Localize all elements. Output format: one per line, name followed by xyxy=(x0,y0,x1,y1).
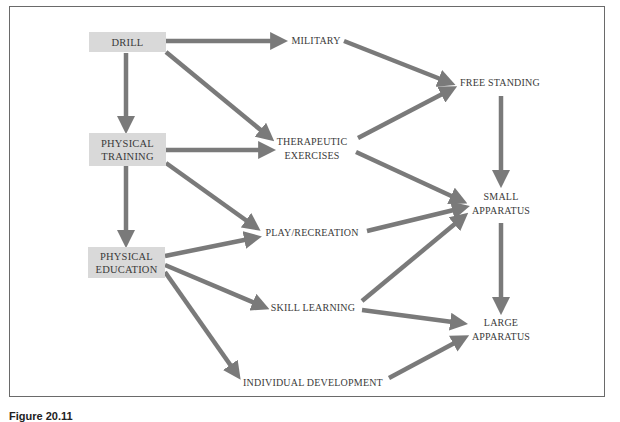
node-therapeutic-line1: THERAPEUTIC xyxy=(274,135,350,149)
node-free-standing-label: FREE STANDING xyxy=(460,77,540,88)
node-physical-education-line2: EDUCATION xyxy=(88,263,165,276)
edge-skill-large xyxy=(362,310,460,323)
node-small-apparatus-line1: SMALL xyxy=(468,190,534,204)
node-small-apparatus-line2: APPARATUS xyxy=(468,204,534,218)
node-free-standing: FREE STANDING xyxy=(455,76,545,90)
node-physical-education: PHYSICAL EDUCATION xyxy=(88,247,165,278)
node-physical-training-line2: TRAINING xyxy=(89,150,166,163)
edge-education-skill xyxy=(165,265,262,306)
edge-education-play xyxy=(165,238,254,256)
node-skill-learning: SKILL LEARNING xyxy=(270,301,356,315)
node-large-apparatus-line2: APPARATUS xyxy=(468,330,534,344)
node-therapeutic-exercises: THERAPEUTIC EXERCISES xyxy=(274,135,350,163)
node-individual-development: INDIVIDUAL DEVELOPMENT xyxy=(240,376,386,390)
node-military-label: MILITARY xyxy=(291,35,340,46)
node-play-recreation: PLAY/RECREATION xyxy=(264,226,360,240)
node-play-recreation-label: PLAY/RECREATION xyxy=(265,227,358,238)
node-individual-development-label: INDIVIDUAL DEVELOPMENT xyxy=(243,377,383,388)
edge-training-play xyxy=(166,163,254,226)
node-drill: DRILL xyxy=(89,32,166,52)
edge-individual-large xyxy=(389,339,462,378)
edge-drill-therapeutic xyxy=(166,52,268,136)
node-drill-label: DRILL xyxy=(89,36,166,49)
node-large-apparatus: LARGE APPARATUS xyxy=(468,316,534,344)
node-large-apparatus-line1: LARGE xyxy=(468,316,534,330)
node-small-apparatus: SMALL APPARATUS xyxy=(468,190,534,218)
edge-therapeutic-small xyxy=(356,152,460,200)
node-military: MILITARY xyxy=(290,34,342,48)
node-skill-learning-label: SKILL LEARNING xyxy=(271,302,355,313)
edge-education-individual xyxy=(165,272,236,373)
figure-caption: Figure 20.11 xyxy=(9,410,73,422)
node-physical-training-line1: PHYSICAL xyxy=(89,137,166,150)
node-physical-education-line1: PHYSICAL xyxy=(88,250,165,263)
node-therapeutic-line2: EXERCISES xyxy=(274,149,350,163)
node-physical-training: PHYSICAL TRAINING xyxy=(89,133,166,166)
edge-therapeutic-freestanding xyxy=(358,90,450,138)
edge-military-freestanding xyxy=(344,41,448,82)
